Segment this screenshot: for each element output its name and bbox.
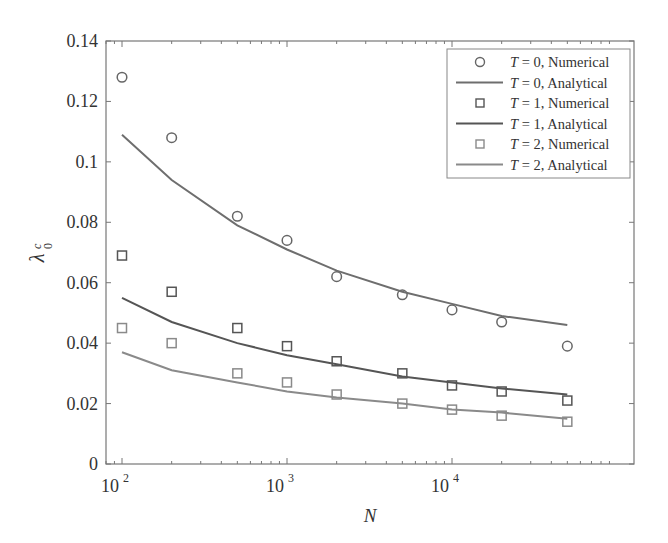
svg-text:λ: λ [26, 253, 48, 263]
data-point [497, 317, 507, 327]
data-point [447, 305, 457, 315]
svg-text:T = 0, Numerical: T = 0, Numerical [510, 54, 609, 70]
data-point [283, 378, 292, 387]
svg-text:10: 10 [101, 476, 119, 496]
x-tick-label: 103 [266, 471, 294, 496]
series-t-1-analytical [122, 298, 567, 395]
y-axis-tick-labels: 00.020.040.060.080.10.120.14 [67, 31, 99, 474]
data-point [563, 341, 573, 351]
svg-text:10: 10 [431, 476, 449, 496]
y-tick-label: 0.12 [67, 91, 99, 111]
svg-text:3: 3 [288, 471, 294, 485]
y-tick-label: 0.04 [67, 333, 99, 353]
legend: T = 0, NumericalT = 0, AnalyticalT = 1, … [447, 49, 630, 178]
y-tick-label: 0 [89, 454, 98, 474]
y-axis-label: λ c 0 [26, 243, 55, 263]
y-tick-label: 0.02 [67, 394, 99, 414]
svg-text:4: 4 [453, 471, 459, 485]
data-point [563, 396, 572, 405]
y-tick-label: 0.06 [67, 273, 99, 293]
svg-text:T = 1, Analytical: T = 1, Analytical [510, 116, 608, 132]
data-point [282, 236, 292, 246]
data-point [233, 324, 242, 333]
line-chart: 00.020.040.060.080.10.120.14 102103104 N… [0, 0, 668, 543]
series-t-2-numerical [118, 324, 572, 427]
x-axis-tick-labels: 102103104 [101, 471, 459, 496]
x-tick-label: 104 [431, 471, 459, 496]
svg-text:T = 0, Analytical: T = 0, Analytical [510, 75, 608, 91]
svg-text:10: 10 [266, 476, 284, 496]
data-point [118, 324, 127, 333]
series-t-2-analytical [122, 352, 567, 419]
data-point [167, 287, 176, 296]
svg-text:T = 1, Numerical: T = 1, Numerical [510, 95, 609, 111]
x-tick-label: 102 [101, 471, 129, 496]
svg-text:0: 0 [41, 243, 55, 249]
y-tick-label: 0.1 [76, 152, 99, 172]
data-point [167, 133, 177, 143]
svg-text:T = 2, Numerical: T = 2, Numerical [510, 136, 609, 152]
svg-text:2: 2 [123, 471, 129, 485]
svg-text:T = 2, Analytical: T = 2, Analytical [510, 157, 608, 173]
data-point [283, 342, 292, 351]
y-tick-label: 0.08 [67, 212, 99, 232]
x-axis-label: N [363, 505, 378, 526]
data-point [118, 251, 127, 260]
data-point [117, 72, 127, 82]
data-point [233, 369, 242, 378]
data-point [167, 339, 176, 348]
y-tick-label: 0.14 [67, 31, 99, 51]
data-point [332, 272, 342, 282]
data-point [233, 211, 243, 221]
